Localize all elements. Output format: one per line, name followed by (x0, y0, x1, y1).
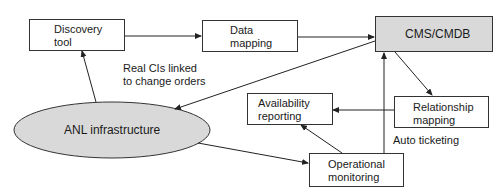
availability-reporting-label-line1: Availability (258, 97, 310, 110)
edge-anl-to-operational (198, 143, 308, 163)
real-cis-label-line2: to change orders (123, 75, 206, 88)
relationship-mapping-label-line1: Relationship (413, 101, 474, 114)
discovery-tool-node: Discovery tool (29, 19, 125, 51)
data-mapping-node: Data mapping (202, 20, 298, 52)
discovery-tool-label-line2: tool (54, 36, 72, 49)
data-mapping-label-line1: Data (230, 24, 253, 37)
operational-monitoring-label-line2: monitoring (328, 171, 379, 184)
relationship-mapping-label-line2: mapping (413, 114, 455, 127)
data-mapping-label-line2: mapping (230, 37, 272, 50)
operational-monitoring-label-line1: Operational (328, 158, 385, 171)
availability-reporting-label-line2: reporting (258, 110, 301, 123)
real-cis-label-line1: Real CIs linked (123, 62, 197, 75)
auto-ticketing-label: Auto ticketing (393, 134, 459, 147)
cms-cmdb-label: CMS/CMDB (405, 28, 470, 41)
edge-cms-to-relationship (395, 52, 432, 95)
discovery-tool-label-line1: Discovery (54, 23, 102, 36)
availability-reporting-node: Availability reporting (247, 93, 333, 125)
operational-monitoring-node: Operational monitoring (309, 153, 404, 187)
edge-operational-to-availability (301, 125, 342, 153)
relationship-mapping-node: Relationship mapping (394, 96, 489, 128)
cms-cmdb-node: CMS/CMDB (375, 16, 493, 52)
anl-infrastructure-label: ANL infrastructure (64, 124, 160, 137)
edge-anl-to-discovery (82, 51, 96, 102)
